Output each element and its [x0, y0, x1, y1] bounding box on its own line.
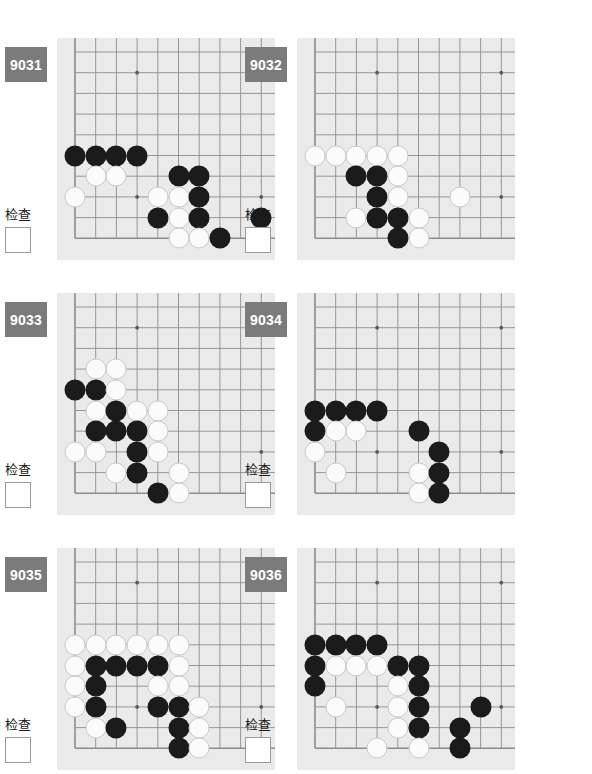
white-stone[interactable]	[85, 166, 106, 187]
black-stone[interactable]	[168, 717, 189, 738]
black-stone[interactable]	[147, 483, 168, 504]
black-stone[interactable]	[85, 676, 106, 697]
black-stone[interactable]	[85, 379, 106, 400]
white-stone[interactable]	[85, 359, 106, 380]
black-stone[interactable]	[85, 696, 106, 717]
black-stone[interactable]	[408, 421, 429, 442]
white-stone[interactable]	[367, 655, 388, 676]
black-stone[interactable]	[65, 145, 86, 166]
white-stone[interactable]	[106, 634, 127, 655]
black-stone[interactable]	[367, 166, 388, 187]
white-stone[interactable]	[408, 483, 429, 504]
black-stone[interactable]	[305, 634, 326, 655]
black-stone[interactable]	[106, 717, 127, 738]
white-stone[interactable]	[189, 738, 210, 759]
white-stone[interactable]	[106, 462, 127, 483]
black-stone[interactable]	[346, 166, 367, 187]
check-checkbox[interactable]	[245, 737, 271, 763]
white-stone[interactable]	[346, 655, 367, 676]
white-stone[interactable]	[65, 696, 86, 717]
black-stone[interactable]	[168, 166, 189, 187]
go-board[interactable]	[297, 38, 515, 260]
black-stone[interactable]	[346, 400, 367, 421]
black-stone[interactable]	[168, 696, 189, 717]
black-stone[interactable]	[189, 166, 210, 187]
white-stone[interactable]	[189, 717, 210, 738]
black-stone[interactable]	[305, 421, 326, 442]
check-checkbox[interactable]	[245, 482, 271, 508]
black-stone[interactable]	[387, 655, 408, 676]
black-stone[interactable]	[147, 696, 168, 717]
black-stone[interactable]	[325, 634, 346, 655]
black-stone[interactable]	[85, 655, 106, 676]
black-stone[interactable]	[470, 696, 491, 717]
black-stone[interactable]	[367, 400, 388, 421]
black-stone[interactable]	[325, 400, 346, 421]
white-stone[interactable]	[387, 696, 408, 717]
white-stone[interactable]	[147, 400, 168, 421]
white-stone[interactable]	[387, 717, 408, 738]
black-stone[interactable]	[106, 145, 127, 166]
white-stone[interactable]	[147, 634, 168, 655]
black-stone[interactable]	[429, 462, 450, 483]
white-stone[interactable]	[106, 379, 127, 400]
white-stone[interactable]	[65, 655, 86, 676]
white-stone[interactable]	[65, 441, 86, 462]
white-stone[interactable]	[147, 186, 168, 207]
go-board[interactable]	[297, 293, 515, 515]
white-stone[interactable]	[168, 634, 189, 655]
black-stone[interactable]	[387, 228, 408, 249]
black-stone[interactable]	[429, 441, 450, 462]
white-stone[interactable]	[147, 676, 168, 697]
check-checkbox[interactable]	[245, 227, 271, 253]
white-stone[interactable]	[325, 696, 346, 717]
black-stone[interactable]	[147, 207, 168, 228]
black-stone[interactable]	[189, 207, 210, 228]
black-stone[interactable]	[305, 676, 326, 697]
white-stone[interactable]	[85, 717, 106, 738]
black-stone[interactable]	[127, 441, 148, 462]
black-stone[interactable]	[147, 655, 168, 676]
white-stone[interactable]	[65, 186, 86, 207]
white-stone[interactable]	[189, 228, 210, 249]
white-stone[interactable]	[147, 421, 168, 442]
white-stone[interactable]	[325, 655, 346, 676]
white-stone[interactable]	[168, 655, 189, 676]
white-stone[interactable]	[127, 634, 148, 655]
white-stone[interactable]	[168, 676, 189, 697]
check-checkbox[interactable]	[5, 482, 31, 508]
white-stone[interactable]	[305, 145, 326, 166]
white-stone[interactable]	[346, 207, 367, 228]
white-stone[interactable]	[449, 186, 470, 207]
white-stone[interactable]	[387, 145, 408, 166]
white-stone[interactable]	[106, 359, 127, 380]
black-stone[interactable]	[367, 634, 388, 655]
black-stone[interactable]	[209, 228, 230, 249]
white-stone[interactable]	[168, 207, 189, 228]
black-stone[interactable]	[449, 717, 470, 738]
white-stone[interactable]	[408, 462, 429, 483]
black-stone[interactable]	[127, 145, 148, 166]
white-stone[interactable]	[346, 145, 367, 166]
white-stone[interactable]	[387, 186, 408, 207]
black-stone[interactable]	[168, 738, 189, 759]
white-stone[interactable]	[168, 228, 189, 249]
white-stone[interactable]	[168, 462, 189, 483]
check-checkbox[interactable]	[5, 737, 31, 763]
white-stone[interactable]	[168, 186, 189, 207]
black-stone[interactable]	[85, 421, 106, 442]
white-stone[interactable]	[189, 696, 210, 717]
white-stone[interactable]	[85, 634, 106, 655]
black-stone[interactable]	[367, 186, 388, 207]
black-stone[interactable]	[65, 379, 86, 400]
white-stone[interactable]	[408, 207, 429, 228]
white-stone[interactable]	[147, 441, 168, 462]
black-stone[interactable]	[189, 186, 210, 207]
black-stone[interactable]	[85, 145, 106, 166]
white-stone[interactable]	[85, 441, 106, 462]
white-stone[interactable]	[408, 228, 429, 249]
black-stone[interactable]	[408, 676, 429, 697]
white-stone[interactable]	[168, 483, 189, 504]
black-stone[interactable]	[408, 717, 429, 738]
black-stone[interactable]	[429, 483, 450, 504]
